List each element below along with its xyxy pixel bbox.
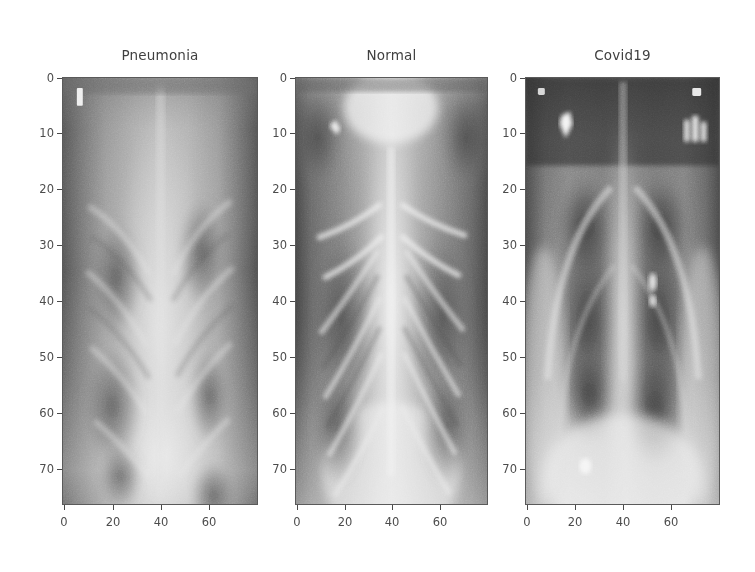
ytick-mark xyxy=(520,301,525,302)
ytick-mark xyxy=(290,357,295,358)
panel-title-covid19: Covid19 xyxy=(525,47,720,63)
xtick-label: 20 xyxy=(338,515,353,529)
xray-image-pneumonia xyxy=(62,77,258,505)
ytick-label: 40 xyxy=(502,294,517,308)
ytick-mark xyxy=(57,78,62,79)
xtick-label: 40 xyxy=(154,515,169,529)
subplot-normal: Normal xyxy=(295,77,488,505)
ytick-mark xyxy=(520,245,525,246)
panel-title-pneumonia: Pneumonia xyxy=(62,47,258,63)
ytick-mark xyxy=(520,78,525,79)
xtick-label: 0 xyxy=(60,515,67,529)
xtick-label: 0 xyxy=(293,515,300,529)
xtick-label: 40 xyxy=(385,515,400,529)
ytick-mark xyxy=(290,133,295,134)
xray-render-pneumonia xyxy=(63,78,257,504)
ytick-label: 70 xyxy=(39,462,54,476)
ytick-label: 60 xyxy=(502,406,517,420)
ytick-mark xyxy=(290,189,295,190)
ytick-label: 10 xyxy=(272,126,287,140)
ytick-mark xyxy=(57,189,62,190)
ytick-mark xyxy=(290,469,295,470)
xtick-mark xyxy=(345,505,346,510)
ytick-label: 10 xyxy=(39,126,54,140)
xtick-label: 60 xyxy=(433,515,448,529)
ytick-mark xyxy=(57,133,62,134)
xtick-mark xyxy=(623,505,624,510)
ytick-mark xyxy=(57,301,62,302)
ytick-mark xyxy=(520,357,525,358)
ytick-label: 0 xyxy=(47,71,54,85)
ytick-mark xyxy=(57,413,62,414)
ytick-mark xyxy=(57,357,62,358)
ytick-mark xyxy=(520,413,525,414)
ytick-label: 20 xyxy=(272,182,287,196)
panel-title-normal: Normal xyxy=(295,47,488,63)
ytick-mark xyxy=(57,469,62,470)
ytick-label: 20 xyxy=(502,182,517,196)
ytick-label: 30 xyxy=(502,238,517,252)
xray-image-covid19 xyxy=(525,77,720,505)
xtick-label: 20 xyxy=(106,515,121,529)
subplot-pneumonia: Pneumonia xyxy=(62,77,258,505)
ytick-label: 10 xyxy=(502,126,517,140)
xtick-label: 0 xyxy=(523,515,530,529)
xtick-mark xyxy=(113,505,114,510)
xtick-mark xyxy=(64,505,65,510)
ytick-mark xyxy=(57,245,62,246)
xtick-mark xyxy=(209,505,210,510)
xray-render-covid19 xyxy=(526,78,719,504)
ytick-mark xyxy=(520,133,525,134)
ytick-label: 0 xyxy=(280,71,287,85)
xtick-label: 40 xyxy=(616,515,631,529)
ytick-label: 30 xyxy=(272,238,287,252)
ytick-label: 30 xyxy=(39,238,54,252)
ytick-label: 50 xyxy=(502,350,517,364)
xtick-label: 20 xyxy=(568,515,583,529)
ytick-label: 40 xyxy=(39,294,54,308)
ytick-label: 60 xyxy=(272,406,287,420)
ytick-label: 40 xyxy=(272,294,287,308)
xtick-label: 60 xyxy=(664,515,679,529)
ytick-mark xyxy=(290,413,295,414)
xtick-mark xyxy=(440,505,441,510)
ytick-label: 20 xyxy=(39,182,54,196)
ytick-mark xyxy=(290,78,295,79)
ytick-mark xyxy=(520,469,525,470)
ytick-label: 50 xyxy=(39,350,54,364)
xtick-mark xyxy=(527,505,528,510)
xtick-mark xyxy=(575,505,576,510)
ytick-label: 0 xyxy=(510,71,517,85)
ytick-mark xyxy=(290,245,295,246)
ytick-mark xyxy=(520,189,525,190)
xtick-label: 60 xyxy=(202,515,217,529)
xtick-mark xyxy=(671,505,672,510)
ytick-label: 70 xyxy=(272,462,287,476)
xtick-mark xyxy=(297,505,298,510)
xray-render-normal xyxy=(296,78,487,504)
ytick-label: 70 xyxy=(502,462,517,476)
xray-image-normal xyxy=(295,77,488,505)
xtick-mark xyxy=(392,505,393,510)
subplot-covid19: Covid19 xyxy=(525,77,720,505)
ytick-label: 60 xyxy=(39,406,54,420)
ytick-label: 50 xyxy=(272,350,287,364)
figure-canvas: Pneumonia xyxy=(0,0,755,572)
xtick-mark xyxy=(161,505,162,510)
ytick-mark xyxy=(290,301,295,302)
